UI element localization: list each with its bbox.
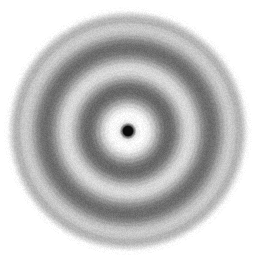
ring-pattern-image [0, 0, 262, 267]
figure-container [0, 0, 262, 267]
